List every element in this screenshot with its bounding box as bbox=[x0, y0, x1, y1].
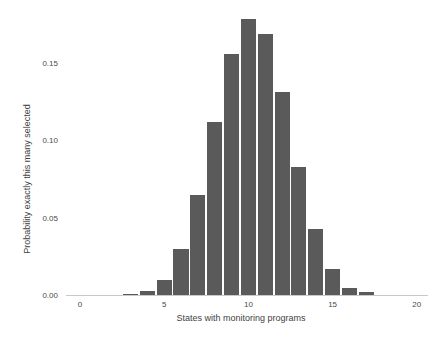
bar-x6 bbox=[173, 249, 188, 295]
y-tick-label-0.05: 0.05 bbox=[18, 214, 58, 223]
bar-x12 bbox=[275, 92, 290, 296]
y-axis-title: Probability exactly this many selected bbox=[22, 104, 32, 254]
bar-x8 bbox=[207, 122, 222, 295]
bar-x15 bbox=[325, 269, 340, 295]
bar-x3 bbox=[123, 294, 138, 296]
bar-x17 bbox=[359, 292, 374, 295]
bar-x4 bbox=[140, 291, 155, 295]
x-tick-label-0: 0 bbox=[78, 300, 82, 309]
x-tick-label-5: 5 bbox=[162, 300, 166, 309]
x-axis-title: States with monitoring programs bbox=[176, 313, 305, 323]
y-tick-label-0.00: 0.00 bbox=[18, 291, 58, 300]
probability-histogram-chart: Probability exactly this many selected S… bbox=[0, 0, 444, 339]
bar-x10 bbox=[241, 19, 256, 295]
x-axis-line bbox=[66, 295, 428, 296]
bar-x14 bbox=[308, 229, 323, 295]
bar-x11 bbox=[258, 34, 273, 295]
x-tick-label-15: 15 bbox=[328, 300, 337, 309]
x-tick-label-20: 20 bbox=[412, 300, 421, 309]
bar-x9 bbox=[224, 54, 239, 295]
bar-x13 bbox=[291, 167, 306, 295]
y-tick-label-0.15: 0.15 bbox=[18, 59, 58, 68]
bar-x16 bbox=[342, 288, 357, 296]
y-tick-label-0.10: 0.10 bbox=[18, 136, 58, 145]
bar-x7 bbox=[190, 195, 205, 295]
bar-x5 bbox=[157, 280, 172, 295]
x-tick-label-10: 10 bbox=[244, 300, 253, 309]
